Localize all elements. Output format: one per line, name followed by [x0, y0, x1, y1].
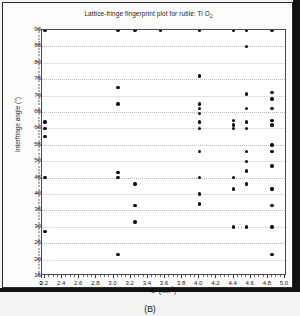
gridline-y-20 [42, 260, 285, 261]
y-tick-mark-45 [37, 176, 40, 177]
x-minor-tick [237, 275, 238, 277]
y-minor-tick [38, 68, 40, 69]
x-minor-tick [83, 275, 84, 277]
x-minor-tick [134, 275, 135, 277]
y-minor-tick [38, 55, 40, 56]
y-minor-tick [38, 219, 40, 220]
x-minor-tick [207, 275, 208, 277]
x-minor-tick [108, 275, 109, 277]
y-minor-tick [38, 268, 40, 269]
x-minor-tick [185, 275, 186, 277]
data-point [43, 120, 46, 123]
y-minor-tick [38, 222, 40, 223]
y-minor-tick [38, 35, 40, 36]
x-tick-mark-2.8 [95, 275, 96, 278]
data-point [245, 127, 248, 130]
data-point [245, 92, 248, 95]
gridline-y-35 [42, 210, 285, 211]
x-minor-tick [117, 275, 118, 277]
y-minor-tick [38, 229, 40, 230]
data-point [270, 123, 273, 126]
x-minor-tick [121, 275, 122, 277]
data-point [43, 135, 46, 138]
data-point [232, 225, 235, 228]
y-minor-tick [38, 65, 40, 66]
y-tick-mark-20 [37, 258, 40, 259]
x-minor-tick [177, 275, 178, 277]
data-point [116, 29, 119, 32]
data-point [245, 29, 248, 32]
data-point [270, 150, 273, 153]
data-point [270, 107, 273, 110]
y-minor-tick [38, 183, 40, 184]
x-minor-tick [48, 275, 49, 277]
gridline-y-50 [42, 161, 285, 162]
x-minor-tick [254, 275, 255, 277]
data-point [270, 91, 273, 94]
y-minor-tick [38, 163, 40, 164]
data-point [270, 164, 273, 167]
data-point [232, 119, 235, 122]
data-point [43, 230, 46, 233]
y-minor-tick [38, 235, 40, 236]
data-point [270, 97, 273, 100]
y-tick-mark-30 [37, 225, 40, 226]
data-point [270, 187, 273, 190]
data-point [245, 160, 248, 163]
y-tick-mark-25 [37, 242, 40, 243]
y-axis: 15202530354045505560657075808590 Interfr… [3, 29, 41, 275]
data-point [198, 202, 201, 205]
x-tick-mark-3.8 [181, 275, 182, 278]
x-minor-tick [211, 275, 212, 277]
x-tick-mark-4 [198, 275, 199, 278]
y-tick-mark-70 [37, 94, 40, 95]
y-minor-tick [38, 271, 40, 272]
y-minor-tick [38, 170, 40, 171]
data-point [232, 29, 235, 32]
y-minor-tick [38, 248, 40, 249]
data-point [133, 29, 136, 32]
x-tick-mark-3 [113, 275, 114, 278]
chart-frame: Lattice-fringe fingerprint plot for ruti… [2, 2, 293, 288]
gridline-y-60 [42, 128, 285, 129]
y-minor-tick [38, 58, 40, 59]
y-minor-tick [38, 252, 40, 253]
y-tick-mark-85 [37, 45, 40, 46]
panel-caption: (B) [0, 304, 300, 314]
y-minor-tick [38, 238, 40, 239]
data-point [198, 192, 201, 195]
gridline-y-85 [42, 46, 285, 47]
figure-container: Lattice-fringe fingerprint plot for ruti… [0, 0, 300, 316]
y-minor-tick [38, 32, 40, 33]
data-point [198, 176, 201, 179]
y-minor-tick [38, 245, 40, 246]
x-tick-mark-3.2 [130, 275, 131, 278]
x-minor-tick [138, 275, 139, 277]
y-minor-tick [38, 202, 40, 203]
data-point [198, 120, 201, 123]
x-minor-tick [263, 275, 264, 277]
y-minor-tick [38, 147, 40, 148]
y-tick-mark-90 [37, 29, 40, 30]
gridline-y-40 [42, 194, 285, 195]
y-minor-tick [38, 265, 40, 266]
y-minor-tick [38, 206, 40, 207]
x-tick-mark-2.2 [44, 275, 45, 278]
y-tick-mark-65 [37, 111, 40, 112]
y-minor-tick [38, 215, 40, 216]
x-minor-tick [151, 275, 152, 277]
x-tick-mark-4.6 [250, 275, 251, 278]
data-point [198, 112, 201, 115]
y-minor-tick [38, 51, 40, 52]
x-minor-tick [194, 275, 195, 277]
y-minor-tick [38, 84, 40, 85]
x-minor-tick [155, 275, 156, 277]
y-minor-tick [38, 97, 40, 98]
data-point [270, 225, 273, 228]
x-minor-tick [168, 275, 169, 277]
x-minor-tick [91, 275, 92, 277]
data-point [232, 127, 235, 130]
gridline-y-75 [42, 79, 285, 80]
x-minor-tick [190, 275, 191, 277]
x-minor-tick [104, 275, 105, 277]
